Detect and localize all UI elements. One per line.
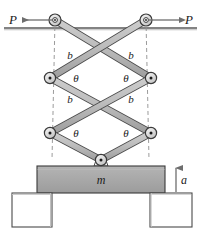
- force-right-label: P: [184, 12, 193, 27]
- pivot-mid-left: [44, 72, 55, 83]
- link-length-label-upper-right: b: [128, 49, 134, 61]
- ceiling: [4, 28, 197, 30]
- link-length-label-lower-right: b: [128, 93, 134, 105]
- pivot-bottom-center: [95, 154, 106, 165]
- link-length-label-upper-left: b: [67, 49, 73, 61]
- angle-label-mid-right: θ: [123, 72, 129, 84]
- mass-label: m: [97, 173, 106, 187]
- pivot-low-left: [44, 127, 55, 138]
- acceleration-label: a: [181, 173, 187, 187]
- support-right: [150, 193, 192, 227]
- scissor-lift-diagram: m: [0, 0, 201, 235]
- angle-label-low-right: θ: [123, 127, 129, 139]
- support-left: [12, 193, 52, 227]
- angle-label-mid-left: θ: [73, 72, 79, 84]
- pivot-mid-right: [145, 72, 156, 83]
- force-left-label: P: [8, 12, 17, 27]
- angle-label-low-left: θ: [73, 127, 79, 139]
- figure-container: m: [0, 0, 201, 235]
- pivot-low-right: [145, 127, 156, 138]
- link-length-label-lower-left: b: [67, 93, 73, 105]
